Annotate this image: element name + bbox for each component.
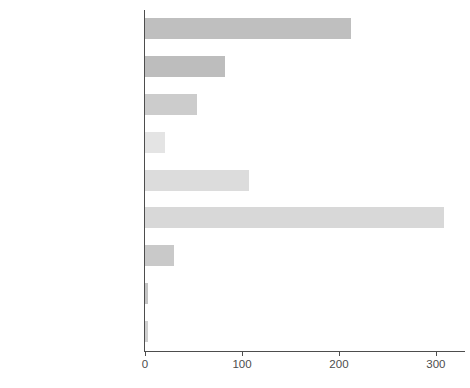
- bar: [145, 207, 444, 228]
- bar-row: Islam unassigned: [145, 313, 465, 351]
- bar-row: Catholic: [145, 10, 465, 48]
- bar: [145, 283, 148, 304]
- bar: [145, 18, 351, 39]
- bar: [145, 56, 225, 77]
- plot-area: CatholicOrthodoxProtestantChristian othe…: [145, 10, 465, 351]
- x-axis-tick-label: 200: [309, 358, 369, 371]
- x-axis-tick-label: 0: [115, 358, 175, 371]
- bar-chart: CatholicOrthodoxProtestantChristian othe…: [0, 0, 470, 388]
- bar-row: Islam other: [145, 275, 465, 313]
- x-axis-tick-mark: [242, 352, 243, 356]
- bar-row: Christian unassigned: [145, 162, 465, 200]
- bar-row: Orthodox: [145, 48, 465, 86]
- x-axis-line: [144, 351, 465, 352]
- x-axis-tick-mark: [339, 352, 340, 356]
- bar: [145, 94, 197, 115]
- x-axis-tick-mark: [436, 352, 437, 356]
- bar-row: Sunni: [145, 199, 465, 237]
- x-axis-tick-mark: [145, 352, 146, 356]
- bar-row: Shi'i: [145, 237, 465, 275]
- x-axis-tick-label: 300: [406, 358, 466, 371]
- x-axis-tick-label: 100: [212, 358, 272, 371]
- bar-row: Christian other: [145, 124, 465, 162]
- bar: [145, 132, 165, 153]
- bar: [145, 245, 174, 266]
- bar: [145, 321, 148, 342]
- bar-row: Protestant: [145, 86, 465, 124]
- bar: [145, 170, 249, 191]
- figure-caption: [0, 377, 470, 388]
